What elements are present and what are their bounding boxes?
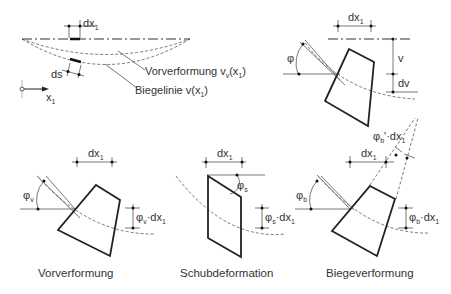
- predeformation-leader: [118, 51, 145, 70]
- element-detail: dx1 v dv φ: [283, 11, 418, 126]
- detail-dv-label: dv: [398, 77, 410, 89]
- panel2-offset-label: φs·dx1: [265, 211, 295, 225]
- panel-bending: φb'·dx1 dx1 φb φb·dx1 Biegeverformung: [295, 118, 439, 279]
- panel3-top-label: φb'·dx1: [373, 130, 405, 144]
- overview-beam: dx1 ds Vorverformung vv(x1) Biegelinie v…: [20, 17, 246, 105]
- bending-line-leader: [105, 64, 137, 88]
- detail-dx-label: dx1: [348, 11, 364, 25]
- overview-dx-label: dx1: [83, 17, 99, 31]
- detail-element: [325, 49, 374, 126]
- panel3-offset-label: φb·dx1: [409, 211, 439, 225]
- panel-shear: dx1 φs φs·dx1 Schubdeformation: [176, 147, 295, 279]
- panel1-caption: Vorverformung: [38, 267, 113, 279]
- predeformation-label: Vorverformung vv(x1): [145, 65, 246, 79]
- predeformation-curve: [22, 39, 190, 55]
- detail-phi-label: φ: [287, 52, 294, 64]
- panel3-caption: Biegeverformung: [326, 267, 414, 279]
- panel2-caption: Schubdeformation: [180, 267, 273, 279]
- panel3-dx-label: dx1: [361, 147, 377, 161]
- x-axis-arrow-icon: [20, 80, 49, 98]
- panel1-offset-label: φv·dx1: [136, 211, 166, 225]
- x-axis-label: x1: [46, 91, 56, 105]
- panel1-angle-label: φv: [23, 189, 34, 203]
- overview-ds-label: ds: [51, 68, 63, 80]
- panel3-angle-label: φb: [296, 189, 307, 203]
- panel-predeformation: dx1 φv φv·dx1 Vorverformung: [20, 147, 166, 279]
- panel1-dx-label: dx1: [88, 147, 104, 161]
- panel2-dx-label: dx1: [217, 147, 233, 161]
- panel2-angle-label: φs: [237, 179, 248, 193]
- detail-v-label: v: [398, 52, 404, 64]
- ds-segment: [70, 59, 81, 62]
- panel1-element: [58, 185, 120, 256]
- deformation-diagram: dx1 ds Vorverformung vv(x1) Biegelinie v…: [0, 0, 451, 294]
- bending-line-curve: [22, 39, 190, 65]
- bending-line-label: Biegelinie v(x1): [135, 84, 208, 98]
